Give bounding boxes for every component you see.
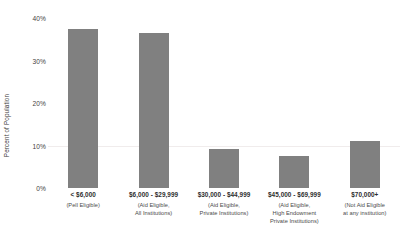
- bar-slot: [118, 18, 188, 188]
- y-axis-title-text: Percent of Population: [4, 93, 11, 156]
- bar[interactable]: [279, 156, 309, 188]
- y-axis-tick-label: 40%: [24, 15, 46, 22]
- category-sublabel: at any institution): [322, 210, 408, 218]
- category-sublabel: (Not Aid Eligible: [322, 202, 408, 210]
- bar-slot: [189, 18, 259, 188]
- category-name: $70,000+: [322, 191, 408, 200]
- bar-slot: [48, 18, 118, 188]
- category-sublabel: Private Institutions): [251, 218, 337, 226]
- bar[interactable]: [209, 149, 239, 188]
- bar-chart: Percent of Population 0%10%20%30%40% < $…: [0, 0, 408, 240]
- y-axis-tick-label: 30%: [24, 57, 46, 64]
- bar-slot: [330, 18, 400, 188]
- bar-slot: [259, 18, 329, 188]
- plot-area: [48, 18, 400, 188]
- y-axis-tick-label: 20%: [24, 100, 46, 107]
- bar[interactable]: [139, 33, 169, 188]
- y-axis-tick-label: 10%: [24, 142, 46, 149]
- y-axis-title: Percent of Population: [0, 60, 14, 190]
- bar[interactable]: [68, 29, 98, 188]
- x-axis-category-label: $70,000+(Not Aid Eligibleat any institut…: [322, 191, 408, 218]
- bar[interactable]: [350, 141, 380, 188]
